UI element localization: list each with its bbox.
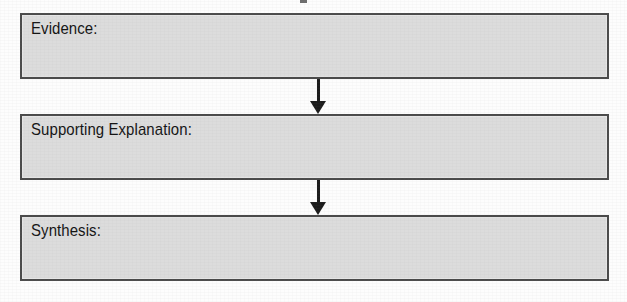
arrow-head [310, 202, 326, 215]
field-label-supporting-explanation: Supporting Explanation: [31, 119, 192, 140]
field-box-supporting-explanation[interactable]: Supporting Explanation: [20, 114, 609, 180]
graphic-organizer: Evidence: Supporting Explanation: Synthe… [0, 0, 627, 302]
field-label-synthesis: Synthesis: [31, 220, 101, 241]
field-label-evidence: Evidence: [31, 18, 97, 39]
arrow-head [310, 101, 326, 114]
field-box-evidence[interactable]: Evidence: [20, 13, 609, 79]
field-box-synthesis[interactable]: Synthesis: [20, 215, 609, 281]
scan-artifact-mark [300, 0, 307, 3]
arrow-shaft [317, 79, 320, 103]
arrow-shaft [317, 180, 320, 204]
